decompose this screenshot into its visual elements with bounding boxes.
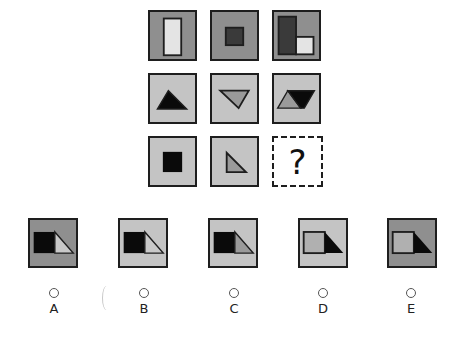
- grid-cell-3-2: [210, 136, 259, 187]
- tall-white-rectangle-icon: [150, 12, 195, 59]
- rect-and-square-icon: [274, 12, 319, 59]
- option-b-figure[interactable]: [118, 218, 168, 268]
- missing-answer-cell: ?: [272, 136, 323, 187]
- small-dark-square-icon: [212, 12, 257, 59]
- option-e-label: E: [401, 301, 421, 316]
- grid-cell-2-1: [148, 73, 197, 124]
- option-c-shape-icon: [210, 220, 256, 266]
- option-e-figure[interactable]: [387, 218, 437, 268]
- option-a-shape-icon: [30, 220, 76, 266]
- option-d-shape-icon: [300, 220, 346, 266]
- grid-cell-1-3: [272, 10, 321, 61]
- option-b-label: B: [134, 301, 154, 316]
- black-triangle-icon: [150, 75, 195, 122]
- option-a-figure[interactable]: [28, 218, 78, 268]
- grid-cell-3-1: [148, 136, 197, 187]
- option-e-shape-icon: [389, 220, 435, 266]
- grid-cell-1-1: [148, 10, 197, 61]
- option-b-radio[interactable]: [139, 288, 149, 298]
- parallelogram-icon: [274, 75, 319, 122]
- option-c-figure[interactable]: [208, 218, 258, 268]
- grid-cell-2-3: [272, 73, 321, 124]
- option-d-radio[interactable]: [318, 288, 328, 298]
- grid-cell-1-2: [210, 10, 259, 61]
- option-a-radio[interactable]: [49, 288, 59, 298]
- option-d-figure[interactable]: [298, 218, 348, 268]
- stray-mark: [102, 286, 111, 310]
- gray-inverted-triangle-icon: [212, 75, 257, 122]
- option-e-radio[interactable]: [406, 288, 416, 298]
- option-c-radio[interactable]: [229, 288, 239, 298]
- option-b-shape-icon: [120, 220, 166, 266]
- question-mark: ?: [274, 138, 321, 185]
- grid-cell-2-2: [210, 73, 259, 124]
- option-c-label: C: [224, 301, 244, 316]
- option-a-label: A: [44, 301, 64, 316]
- option-d-label: D: [313, 301, 333, 316]
- black-square-icon: [150, 138, 195, 185]
- gray-right-triangle-icon: [212, 138, 257, 185]
